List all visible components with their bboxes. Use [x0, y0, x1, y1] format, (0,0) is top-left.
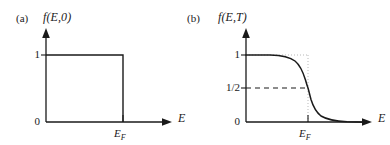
panel-a-step-curve — [46, 55, 123, 122]
panel-b-ef-sub: F — [306, 133, 311, 142]
panel-a-ef-base: E — [114, 127, 121, 139]
panel-a-ef-sub: F — [121, 133, 126, 142]
panel-b-x-tick-label-ef: EF — [299, 127, 311, 142]
panel-a-x-tick-label-ef: EF — [114, 127, 126, 142]
fermi-dirac-distribution-figure: (a) f(E,0) 1 0 EF E (b) f(E,T) — [0, 0, 390, 145]
panel-b-y-tick-label-half: 1/2 — [216, 81, 240, 93]
panel-b-ef-base: E — [299, 127, 306, 139]
panel-a: (a) f(E,0) 1 0 EF E — [0, 0, 195, 145]
panel-a-x-axis-label: E — [178, 111, 185, 126]
panel-b: (b) f(E,T) 1 1/2 0 EF E — [195, 0, 390, 145]
panel-b-x-axis-label: E — [378, 111, 385, 126]
panel-b-y-tick-label-1: 1 — [228, 48, 240, 60]
panel-b-y-tick-label-0: 0 — [228, 115, 240, 127]
panel-a-y-tick-label-1: 1 — [28, 48, 40, 60]
panel-a-y-axis-arrow — [42, 28, 50, 38]
panel-b-plot — [195, 0, 390, 145]
panel-b-y-axis-arrow — [242, 28, 250, 38]
panel-a-x-axis-arrow — [162, 118, 172, 126]
panel-a-y-tick-label-0: 0 — [28, 115, 40, 127]
